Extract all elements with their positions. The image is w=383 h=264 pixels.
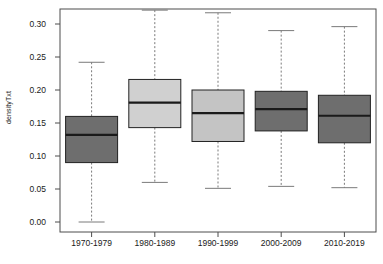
plot-canvas [0,0,383,264]
box[interactable] [255,91,307,131]
boxplot-figure: densityTxt 0.000.050.100.150.200.250.30 … [0,0,383,264]
box[interactable] [318,95,370,143]
box[interactable] [66,116,118,162]
box[interactable] [192,90,244,141]
